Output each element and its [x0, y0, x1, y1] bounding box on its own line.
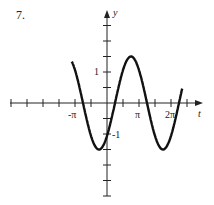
t-axis-arrow-icon [195, 100, 203, 106]
tick-label-pi: π [135, 109, 140, 120]
sine-graph: y t -π π 2π 1 -1 [0, 0, 214, 205]
tick-label-2pi: 2π [165, 109, 175, 120]
tick-label-y-neg1: -1 [112, 129, 120, 140]
t-axis-label: t [198, 108, 201, 119]
axes [10, 10, 203, 196]
y-axis-label: y [112, 7, 118, 18]
tick-label-y-1: 1 [94, 66, 99, 77]
ticks [11, 26, 187, 197]
tick-label-neg-pi: -π [68, 109, 76, 120]
y-axis-arrow-icon [104, 10, 110, 18]
